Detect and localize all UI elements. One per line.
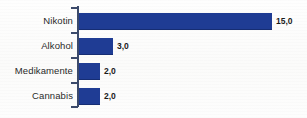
category-label-2: Medikamente [3,63,73,79]
bar-3 [79,88,100,105]
bar-0 [79,13,272,30]
axis-tick-0 [71,7,78,9]
category-label-3: Cannabis [3,88,73,104]
axis-tick-1 [71,32,78,34]
category-label-0: Nikotin [3,13,73,29]
axis-tick-4 [71,106,78,108]
bar-value-label-2: 2,0 [104,63,116,79]
bar-1 [79,38,113,55]
bar-value-label-1: 3,0 [117,38,129,54]
category-label-1: Alkohol [3,38,73,54]
axis-tick-2 [71,57,78,59]
plot-area: Nikotin15,0Alkohol3,0Medikamente2,0Canna… [0,0,307,118]
bar-value-label-0: 15,0 [276,13,293,29]
bar-2 [79,63,100,80]
bar-value-label-3: 2,0 [104,88,116,104]
bar-chart-figure: Nikotin15,0Alkohol3,0Medikamente2,0Canna… [0,0,307,118]
axis-tick-3 [71,82,78,84]
